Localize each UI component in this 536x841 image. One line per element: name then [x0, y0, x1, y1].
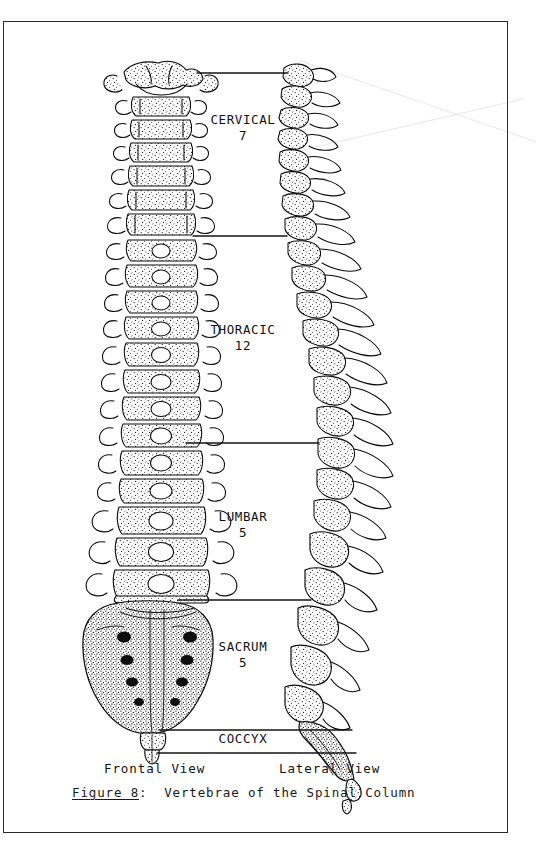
region-label-cervical: CERVICAL 7 [196, 112, 290, 143]
region-label-coccyx: COCCYX [194, 731, 292, 747]
figure-caption: Figure 8: Vertebrae of the Spinal Column [72, 785, 415, 800]
region-label-sacrum: SACRUM 5 [196, 639, 290, 670]
view-caption-lateral: Lateral View [279, 761, 380, 776]
region-label-thoracic: THORACIC 12 [196, 322, 290, 353]
figure-caption-text: Vertebrae of the Spinal Column [164, 785, 415, 800]
figure-caption-separator: : [139, 785, 147, 800]
lateral-view-spine [278, 64, 393, 814]
region-label-lumbar: LUMBAR 5 [196, 509, 290, 540]
view-caption-frontal: Frontal View [104, 761, 205, 776]
figure-caption-number: Figure 8 [72, 785, 139, 800]
